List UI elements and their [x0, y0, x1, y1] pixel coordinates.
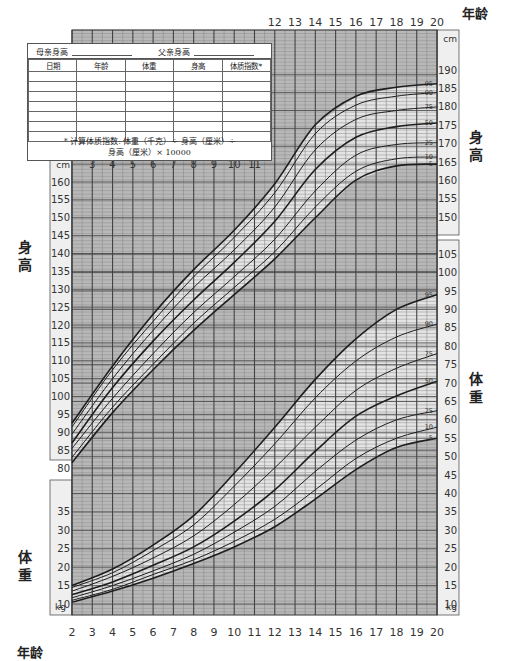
weight-tick-right: 25 — [444, 543, 457, 554]
age-tick-top: 15 — [329, 16, 343, 29]
record-cell[interactable] — [174, 92, 222, 102]
age-tick-bottom: 13 — [288, 626, 302, 639]
kg-unit-left: kg — [55, 602, 66, 612]
record-cell[interactable] — [174, 72, 222, 82]
record-cell[interactable] — [222, 92, 270, 102]
record-cell[interactable] — [174, 122, 222, 132]
stature-label-right: 身高 — [468, 128, 484, 164]
stature-tick-left: 125 — [51, 302, 70, 313]
weight-tick-right: 55 — [444, 433, 457, 444]
father-height-field[interactable] — [194, 47, 254, 56]
weight-tick-left: 20 — [57, 562, 70, 573]
stature-tick-right: 190 — [438, 65, 457, 76]
stature-tick-right: 160 — [438, 175, 457, 186]
stature-tick-left: 140 — [51, 248, 70, 259]
stature-percentile-label: 90 — [425, 89, 433, 97]
stature-tick-left: 90 — [57, 427, 70, 438]
stature-percentile-label: 75 — [425, 103, 433, 111]
parent-height-row: 母亲身高 父亲身高 — [28, 44, 271, 59]
record-cell[interactable] — [222, 72, 270, 82]
record-row — [29, 102, 271, 112]
record-cell[interactable] — [29, 72, 77, 82]
weight-percentile-label: 50 — [425, 377, 433, 385]
weight-tick-right: 30 — [444, 525, 457, 536]
age-tick-bottom: 12 — [268, 626, 282, 639]
record-cell[interactable] — [125, 82, 173, 92]
age-tick-bottom: 11 — [248, 626, 262, 639]
weight-tick-left: 15 — [57, 580, 70, 591]
col-age: 年龄 — [77, 60, 125, 72]
record-cell[interactable] — [174, 112, 222, 122]
record-cell[interactable] — [125, 122, 173, 132]
record-cell[interactable] — [77, 82, 125, 92]
weight-tick-right: 35 — [444, 506, 457, 517]
weight-tick-right: 85 — [444, 322, 457, 333]
age-tick-bottom: 3 — [89, 626, 96, 639]
record-cell[interactable] — [174, 82, 222, 92]
age-tick-bottom: 20 — [430, 626, 444, 639]
record-table-header: 日期 年龄 体重 身高 体质指数* — [29, 60, 271, 72]
age-tick-bottom: 2 — [69, 626, 76, 639]
stature-tick-left: 110 — [51, 355, 70, 366]
weight-tick-right: 40 — [444, 488, 457, 499]
weight-label-left: 体重 — [17, 548, 33, 584]
age-tick-bottom: 14 — [308, 626, 322, 639]
father-height-label: 父亲身高 — [158, 46, 190, 57]
weight-tick-right: 90 — [444, 304, 457, 315]
record-cell[interactable] — [29, 112, 77, 122]
weight-percentile-label: 5 — [429, 434, 433, 442]
weight-tick-right: 100 — [438, 267, 457, 278]
stature-tick-left: 80 — [57, 463, 70, 474]
record-cell[interactable] — [125, 92, 173, 102]
record-cell[interactable] — [77, 112, 125, 122]
record-cell[interactable] — [222, 82, 270, 92]
record-row — [29, 82, 271, 92]
bmi-footnote: * 计算体质指数: 体重（千克）÷ 身高（厘米）÷ 身高（厘米）× 10000 — [28, 136, 271, 158]
record-cell[interactable] — [29, 82, 77, 92]
record-cell[interactable] — [77, 92, 125, 102]
weight-tick-right: 60 — [444, 414, 457, 425]
record-cell[interactable] — [222, 112, 270, 122]
age-tick-bottom: 8 — [190, 626, 197, 639]
stature-tick-left: 135 — [51, 266, 70, 277]
age-tick-bottom: 16 — [349, 626, 363, 639]
age-tick-top: 17 — [369, 16, 383, 29]
cm-unit-right: cm — [443, 34, 457, 44]
weight-percentile-label: 95 — [425, 291, 433, 299]
age-tick-top: 12 — [268, 16, 282, 29]
stature-percentile-label: 50 — [425, 119, 433, 127]
mother-height-label: 母亲身高 — [36, 46, 68, 57]
record-cell[interactable] — [29, 122, 77, 132]
record-cell[interactable] — [77, 122, 125, 132]
col-weight: 体重 — [125, 60, 173, 72]
record-cell[interactable] — [29, 92, 77, 102]
stature-tick-left: 160 — [51, 177, 70, 188]
col-bmi: 体质指数* — [222, 60, 270, 72]
record-cell[interactable] — [222, 102, 270, 112]
record-cell[interactable] — [125, 72, 173, 82]
stature-tick-left: 105 — [51, 373, 70, 384]
age-tick-bottom: 18 — [389, 626, 403, 639]
record-cell[interactable] — [222, 122, 270, 132]
weight-tick-right: 15 — [444, 580, 457, 591]
weight-tick-right: 75 — [444, 359, 457, 370]
record-cell[interactable] — [77, 72, 125, 82]
stature-tick-left: 155 — [51, 194, 70, 205]
record-cell[interactable] — [29, 102, 77, 112]
record-cell[interactable] — [174, 102, 222, 112]
record-cell[interactable] — [125, 112, 173, 122]
mother-height-field[interactable] — [72, 47, 132, 56]
stature-tick-left: 150 — [51, 212, 70, 223]
record-row — [29, 92, 271, 102]
weight-tick-left: 25 — [57, 543, 70, 554]
record-cell[interactable] — [125, 102, 173, 112]
age-tick-bottom: 9 — [210, 626, 217, 639]
age-label-top: 年龄 — [462, 3, 488, 22]
stature-percentile-label: 95 — [425, 80, 433, 88]
record-cell[interactable] — [77, 102, 125, 112]
age-tick-bottom: 6 — [150, 626, 157, 639]
age-tick-top: 13 — [288, 16, 302, 29]
stature-tick-right: 170 — [438, 138, 457, 149]
stature-percentile-label: 5 — [429, 160, 433, 168]
stature-tick-right: 165 — [438, 157, 457, 168]
